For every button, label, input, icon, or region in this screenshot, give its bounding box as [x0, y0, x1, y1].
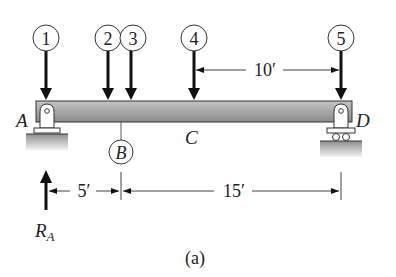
point-c-label: C: [185, 127, 198, 148]
ground-a: [26, 134, 68, 150]
load-2: 2: [95, 25, 121, 100]
load-3: 3: [120, 25, 146, 100]
load-4-arrow-head-icon: [188, 88, 200, 100]
reaction-label: RA: [34, 220, 55, 244]
load-4: 4: [181, 25, 207, 100]
dimension-15ft: 15′: [123, 172, 341, 201]
reaction-arrow-head-icon: [40, 170, 52, 183]
beam-diagram: 1 2 3 4 5 10′ A D C B: [0, 0, 396, 277]
dimension-10ft-label: 10′: [254, 60, 276, 80]
ground-d: [320, 141, 362, 157]
load-2-arrow-head-icon: [102, 88, 114, 100]
load-3-label: 3: [129, 29, 138, 49]
point-b-marker: B: [109, 122, 133, 164]
load-4-label: 4: [190, 29, 199, 49]
load-5-label: 5: [337, 29, 346, 49]
dimension-10ft: 10′: [196, 60, 339, 80]
figure-caption: (a): [185, 248, 205, 269]
load-1-label: 1: [42, 29, 51, 49]
load-5-arrow-head-icon: [335, 88, 347, 100]
reaction-ra: RA: [34, 170, 55, 244]
load-1: 1: [33, 25, 59, 100]
load-5: 5: [328, 25, 354, 100]
point-b-label: B: [116, 143, 127, 163]
point-a-label: A: [14, 110, 28, 131]
point-d-label: D: [355, 110, 370, 131]
dimension-5ft-label: 5′: [78, 181, 91, 201]
load-3-arrow-head-icon: [125, 88, 137, 100]
load-1-arrow-head-icon: [40, 88, 52, 100]
dimension-15ft-label: 15′: [223, 181, 245, 201]
load-2-label: 2: [104, 29, 113, 49]
dimension-5ft: 5′: [49, 172, 121, 201]
beam: [36, 101, 352, 122]
